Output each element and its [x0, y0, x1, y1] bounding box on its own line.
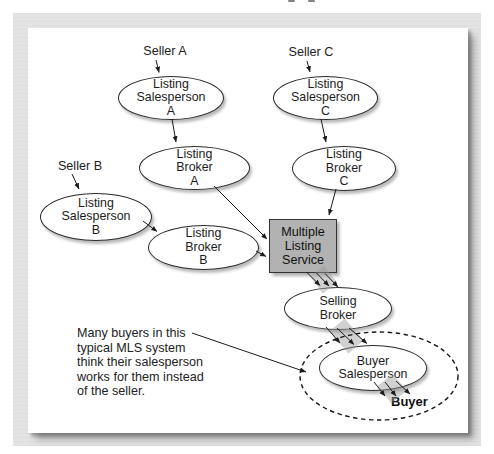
- buyer-label: Buyer: [391, 394, 428, 409]
- seller-b-label: Seller B: [50, 159, 110, 173]
- cropped-caption-artifact: [288, 0, 295, 2]
- node-selling-broker: Selling Broker: [284, 287, 392, 330]
- mls-diagram-figure: Seller A Seller B Seller C Listing Sales…: [0, 0, 494, 454]
- node-buyer-salesperson: Buyer Salesperson: [319, 345, 427, 391]
- cropped-caption-artifact: [308, 0, 315, 2]
- node-listing-salesperson-c: Listing Salesperson C: [273, 76, 378, 120]
- node-listing-broker-a: Listing Broker A: [139, 146, 250, 190]
- seller-c-label: Seller C: [281, 45, 341, 59]
- node-listing-salesperson-b: Listing Salesperson B: [40, 193, 152, 241]
- node-listing-salesperson-a: Listing Salesperson A: [118, 76, 224, 120]
- seller-a-label: Seller A: [135, 44, 195, 58]
- node-listing-broker-c: Listing Broker C: [292, 146, 396, 191]
- annotation-text: Many buyers in this typical MLS system t…: [77, 326, 207, 399]
- node-multiple-listing-service: Multiple Listing Service: [269, 219, 337, 273]
- node-listing-broker-b: Listing Broker B: [148, 225, 259, 270]
